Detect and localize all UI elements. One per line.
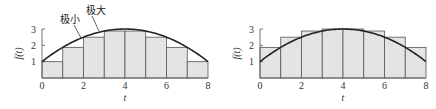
bar: [385, 37, 406, 78]
annotation-label: 极小: [60, 13, 80, 25]
bars: [260, 29, 426, 78]
bar: [84, 37, 105, 78]
bar: [343, 29, 364, 78]
bar: [302, 31, 323, 78]
x-tick-label: 6: [164, 80, 169, 91]
y-axis-label: f(t): [13, 47, 25, 60]
x-tick-label: 0: [258, 80, 263, 91]
y-tick-label: 2: [249, 40, 254, 51]
x-tick-label: 4: [341, 80, 346, 91]
chart-1: 12302468tf(t)极小极大: [13, 4, 211, 103]
x-tick-label: 0: [40, 80, 45, 91]
annotation-leader-line: [92, 16, 99, 31]
bar: [167, 47, 188, 78]
annotation-leader-line: [74, 25, 81, 38]
chart-2: 12302468tf(t): [231, 24, 429, 104]
y-tick-label: 3: [31, 24, 36, 35]
bars: [42, 31, 208, 78]
bar: [405, 47, 426, 78]
x-tick-label: 6: [382, 80, 387, 91]
x-tick-label: 8: [424, 80, 429, 91]
y-tick-label: 2: [31, 40, 36, 51]
x-axis-label: t: [342, 92, 345, 103]
y-tick-label: 1: [31, 56, 36, 67]
figure: 12302468tf(t)极小极大12302468tf(t): [0, 0, 436, 109]
bar: [322, 29, 343, 78]
bar: [146, 37, 167, 78]
y-tick-label: 1: [249, 56, 254, 67]
bar: [364, 31, 385, 78]
bar: [260, 47, 281, 78]
y-tick-label: 3: [249, 24, 254, 35]
x-axis-label: t: [124, 92, 127, 103]
annotation-label: 极大: [86, 4, 106, 16]
riemann-sum-charts: 12302468tf(t)极小极大12302468tf(t): [0, 0, 436, 109]
bar: [104, 31, 125, 78]
x-tick-label: 8: [206, 80, 211, 91]
bar: [187, 62, 208, 78]
bar: [63, 47, 84, 78]
x-tick-label: 2: [299, 80, 304, 91]
bar: [42, 62, 63, 78]
y-axis-label: f(t): [231, 47, 243, 60]
bar: [281, 37, 302, 78]
x-tick-label: 4: [123, 80, 128, 91]
x-tick-label: 2: [81, 80, 86, 91]
bar: [125, 31, 146, 78]
